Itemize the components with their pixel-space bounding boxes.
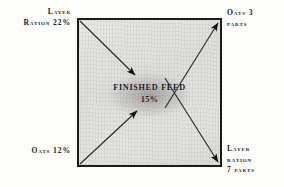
center-value: 15% (77, 94, 222, 106)
label-top-right: Oats 3 parts (227, 8, 253, 29)
label-top-left-line1: Layer (23, 7, 71, 18)
label-bottom-left: Oats 12% (31, 146, 71, 157)
arrow-top-left-inward (80, 21, 135, 75)
center-label: FINISHED FEED 15% (77, 82, 222, 106)
label-top-left: Layer Ration 22% (23, 7, 71, 28)
arrow-bottom-left-inward (80, 111, 137, 164)
label-bottom-right-line2: ration (227, 155, 255, 166)
label-top-right-line2: parts (227, 19, 253, 30)
label-bottom-right-line1: Layer (227, 144, 255, 155)
label-bottom-right-line3: 7 parts (227, 165, 255, 176)
label-top-right-line1: Oats 3 (227, 8, 253, 19)
label-top-left-line2: Ration 22% (23, 18, 71, 29)
label-bottom-left-line1: Oats 12% (31, 146, 71, 157)
center-title: FINISHED FEED (77, 82, 222, 94)
pearson-square-diagram: FINISHED FEED 15% Layer Ration 22% Oats … (0, 0, 284, 187)
label-bottom-right: Layer ration 7 parts (227, 144, 255, 176)
